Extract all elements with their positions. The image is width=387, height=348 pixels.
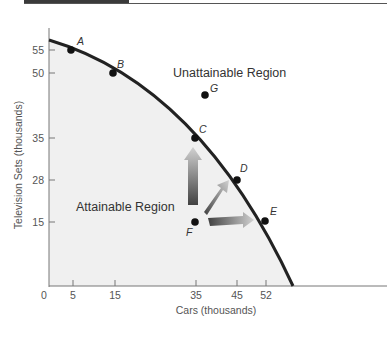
point-label-f: F	[186, 226, 193, 238]
unattainable-region-label: Unattainable Region	[173, 66, 286, 80]
point-label-d: D	[240, 162, 248, 174]
y-tick-label: 35	[32, 132, 44, 144]
point-label-b: B	[117, 58, 124, 70]
y-axis-title: Television Sets (thousands)	[12, 101, 24, 229]
y-tick-label: 50	[32, 67, 44, 79]
x-tick-label: 5	[70, 289, 76, 301]
point-label-g: G	[210, 82, 218, 94]
point-e	[261, 217, 269, 225]
attainable-region-label: Attainable Region	[76, 200, 175, 214]
point-a	[67, 46, 75, 54]
y-tick-label: 28	[32, 174, 44, 186]
x-tick-label: 52	[260, 289, 272, 301]
x-tick-label: 35	[190, 289, 202, 301]
x-tick-label: 0	[41, 289, 47, 301]
point-d	[233, 176, 241, 184]
point-label-a: A	[76, 35, 84, 47]
x-tick-label: 15	[109, 289, 121, 301]
y-tick-label: 15	[32, 216, 44, 228]
point-c	[191, 134, 199, 142]
point-b	[109, 69, 117, 77]
x-tick-label: 45	[231, 289, 243, 301]
ppf-chart: 55 50 35 28 15 0 5 15 35 45 52 Cars (tho…	[0, 0, 387, 348]
point-label-c: C	[199, 123, 207, 135]
point-f	[191, 218, 199, 226]
point-label-e: E	[270, 205, 278, 217]
x-axis-title: Cars (thousands)	[176, 304, 257, 316]
y-tick-label: 55	[32, 44, 44, 56]
point-g	[201, 91, 209, 99]
